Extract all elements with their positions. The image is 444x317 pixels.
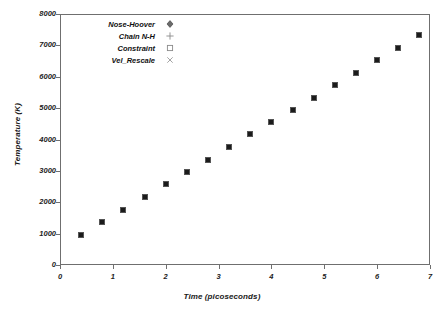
diamond-marker-icon [164, 18, 176, 30]
x-axis-ticks: 01234567 [0, 266, 444, 286]
x-axis-tick-label: 3 [216, 272, 220, 281]
x-axis-tick-label: 7 [428, 272, 432, 281]
cross-marker-icon [164, 54, 176, 66]
square-marker-icon [164, 42, 176, 54]
legend-entry-label: Vel_Rescale [66, 56, 164, 65]
data-point-marker [332, 82, 338, 88]
y-axis-tick-label: 1000 [14, 230, 56, 238]
data-point-marker [99, 219, 105, 225]
legend-entry[interactable]: Constraint [66, 42, 176, 54]
x-axis-tick-label: 4 [269, 272, 273, 281]
data-point-marker [395, 45, 401, 51]
legend-entry[interactable]: Chain N-H [66, 30, 176, 42]
plus-marker-icon [164, 30, 176, 42]
legend-entry-label: Constraint [66, 44, 164, 53]
y-axis-title: Temperature (K) [13, 70, 22, 200]
x-axis-tick-mark [113, 265, 114, 269]
x-axis-tick-mark [219, 265, 220, 269]
chart-figure: 010002000300040005000600070008000 012345… [0, 0, 444, 317]
data-point-marker [205, 157, 211, 163]
temperature-vs-time-chart: 010002000300040005000600070008000 012345… [0, 0, 444, 317]
data-point-marker [226, 144, 232, 150]
x-axis-tick-mark [166, 265, 167, 269]
data-point-marker [78, 232, 84, 238]
data-point-marker [163, 181, 169, 187]
legend-entry[interactable]: Vel_Rescale [66, 54, 176, 66]
x-axis-tick-label: 6 [375, 272, 379, 281]
data-point-marker [290, 107, 296, 113]
data-point-marker [374, 57, 380, 63]
data-point-marker [268, 119, 274, 125]
x-axis-tick-mark [377, 265, 378, 269]
data-point-marker [184, 169, 190, 175]
x-axis-tick-mark [430, 265, 431, 269]
x-axis-tick-label: 5 [322, 272, 326, 281]
legend-entry[interactable]: Nose-Hoover [66, 18, 176, 30]
data-point-marker [311, 95, 317, 101]
legend-entry-label: Nose-Hoover [66, 20, 164, 29]
chart-legend: Nose-HooverChain N-HConstraintVel_Rescal… [66, 18, 176, 66]
y-axis-tick-label: 8000 [14, 10, 56, 18]
data-point-marker [120, 207, 126, 213]
data-point-marker [416, 32, 422, 38]
data-point-marker [247, 131, 253, 137]
x-axis-title: Time (picoseconds) [0, 292, 444, 301]
x-axis-tick-label: 2 [164, 272, 168, 281]
x-axis-tick-mark [271, 265, 272, 269]
legend-entry-label: Chain N-H [66, 32, 164, 41]
x-axis-tick-label: 0 [58, 272, 62, 281]
x-axis-tick-label: 1 [111, 272, 115, 281]
data-point-marker [142, 194, 148, 200]
y-axis-tick-label: 7000 [14, 41, 56, 49]
data-point-marker [353, 70, 359, 76]
x-axis-tick-mark [60, 265, 61, 269]
x-axis-tick-mark [324, 265, 325, 269]
